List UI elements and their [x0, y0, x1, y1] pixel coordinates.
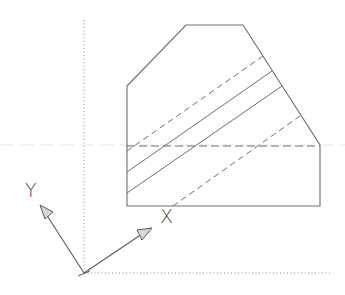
dashed-diagonal-upper	[127, 56, 263, 151]
x-axis-label: X	[160, 205, 173, 227]
y-arrowhead-icon	[40, 205, 53, 219]
y-axis-label: Y	[25, 179, 37, 201]
diagram-canvas: Y X	[0, 0, 345, 295]
ucs-x-axis-arrow	[84, 228, 152, 273]
solid-diagonal-lower	[127, 86, 282, 193]
solid-diagonal-upper	[127, 71, 272, 172]
dashed-diagonal-lower	[173, 116, 300, 206]
prism-outline	[127, 25, 320, 206]
x-arrowhead-icon	[137, 228, 152, 240]
ucs-y-axis-arrow	[40, 205, 84, 273]
